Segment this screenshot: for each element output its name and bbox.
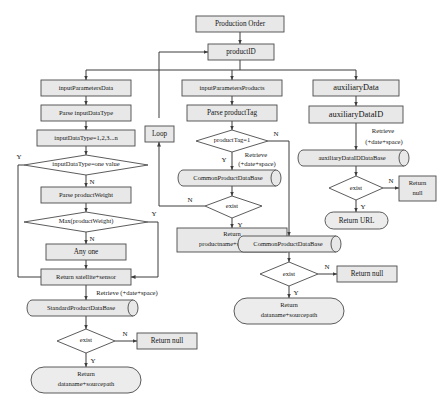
decision-product-tag-eq-1[interactable]: productTag=1 xyxy=(196,130,268,152)
decision-max-product-weight-label: Max(productWeight) xyxy=(59,217,114,225)
node-return-null-right-label: Return null xyxy=(351,270,384,278)
flowchart-canvas: Production Order productID inputParamete… xyxy=(0,0,442,407)
edge-label-retrieve-mid-1: Retrieve xyxy=(245,151,267,158)
node-parse-product-tag-label: Parse productTag xyxy=(207,109,257,117)
decision-exist-aux-label: exist xyxy=(350,184,362,191)
decision-exist-right[interactable]: exist xyxy=(260,262,318,286)
edge-label-retrieve-mid-2: (+date+space) xyxy=(238,160,275,168)
decision-exist-left[interactable]: exist xyxy=(57,329,115,353)
edge-label-onevalue-no: N xyxy=(89,178,94,186)
node-common-product-database-mid[interactable]: CommonProductDataBase xyxy=(178,170,281,186)
edge-label-maxweight-yes: Y xyxy=(151,210,156,218)
node-auxiliary-data[interactable]: auxiliaryData xyxy=(313,80,399,96)
node-return-productname-line1: Return xyxy=(223,230,241,237)
edge-label-existright-no: N xyxy=(324,263,329,271)
node-return-url[interactable]: Return URL xyxy=(325,212,388,229)
edge-label-producttag-yes: Y xyxy=(221,156,226,164)
node-return-dataname-left-line2: dataname+sourcepath xyxy=(58,380,115,387)
edge-label-existaux-yes: Y xyxy=(360,203,365,211)
node-auxiliary-data-label: auxiliaryData xyxy=(333,83,379,92)
node-parse-product-weight[interactable]: Parse productWeight xyxy=(41,187,131,203)
node-return-null-aux-line2: null xyxy=(412,189,422,196)
node-input-parameters-products[interactable]: inputParametersProducts xyxy=(182,80,282,96)
edge-label-maxweight-no: N xyxy=(89,235,94,243)
node-auxiliary-data-id-database[interactable]: auxiliaryDataIDDataBase xyxy=(298,150,409,166)
node-return-satellite-sensor-label: Return satellite+sensor xyxy=(56,273,117,280)
decision-exist-mid[interactable]: exist xyxy=(205,196,262,218)
edge-label-existmid-yes: Y xyxy=(237,221,242,229)
decision-product-tag-eq-1-label: productTag=1 xyxy=(214,136,250,143)
decision-exist-right-label: exist xyxy=(283,270,295,277)
node-input-parameters-products-label: inputParametersProducts xyxy=(200,84,265,91)
node-loop[interactable]: Loop xyxy=(145,126,174,142)
node-parse-input-data-type-label: Parse inputDataType xyxy=(59,109,113,116)
node-return-dataname-right[interactable]: Return dataname+sourcepath xyxy=(234,298,344,324)
node-return-dataname-right-line1: Return xyxy=(280,301,298,308)
edge-label-retrieve-left: Retrieve (+date+space) xyxy=(96,289,157,297)
node-input-data-type-enum-label: inputDataType=1,2,3...n xyxy=(54,134,118,141)
node-any-one-label: Any one xyxy=(74,248,99,256)
edge-label-existmid-no: N xyxy=(187,196,192,204)
node-loop-label: Loop xyxy=(152,130,168,138)
node-product-id-label: productID xyxy=(226,48,256,56)
node-production-order-label: Production Order xyxy=(215,20,266,28)
node-return-dataname-left-line1: Return xyxy=(77,370,95,377)
node-auxiliary-data-id[interactable]: auxiliaryDataID xyxy=(309,106,403,123)
node-return-null-aux-line1: Return xyxy=(409,179,427,186)
edge-label-retrieve-aux-2: (+date+space) xyxy=(365,138,402,146)
edge-label-onevalue-yes: Y xyxy=(16,153,21,161)
edge-label-existleft-yes: Y xyxy=(90,357,95,365)
node-input-data-type-enum[interactable]: inputDataType=1,2,3...n xyxy=(37,130,135,146)
edge-label-existaux-no: N xyxy=(388,177,393,185)
node-standard-product-database-label: StandardProductDataBase xyxy=(47,304,115,311)
node-return-null-left[interactable]: Return null xyxy=(137,333,197,349)
node-return-satellite-sensor[interactable]: Return satellite+sensor xyxy=(41,269,131,285)
node-return-null-right[interactable]: Return null xyxy=(337,266,397,282)
decision-exist-aux[interactable]: exist xyxy=(329,176,383,200)
edge-label-producttag-no: N xyxy=(273,130,278,138)
node-parse-input-data-type[interactable]: Parse inputDataType xyxy=(41,105,131,121)
edge-l6-yes xyxy=(131,222,158,277)
decision-max-product-weight[interactable]: Max(productWeight) xyxy=(24,212,148,232)
node-return-dataname-right-line2: dataname+sourcepath xyxy=(261,311,318,318)
node-auxiliary-data-id-label: auxiliaryDataID xyxy=(329,110,383,119)
edge-label-retrieve-aux-1: Retrieve xyxy=(372,127,394,134)
node-return-dataname-left[interactable]: Return dataname+sourcepath xyxy=(31,367,141,393)
node-return-null-aux[interactable]: Return null xyxy=(399,176,436,201)
node-auxiliary-data-id-database-label: auxiliaryDataIDDataBase xyxy=(318,154,385,161)
node-parse-product-weight-label: Parse productWeight xyxy=(59,191,113,198)
decision-exist-left-label: exist xyxy=(80,336,92,343)
decision-input-data-type-one-value[interactable]: inputDataType=one value xyxy=(24,155,148,175)
edge-label-existright-yes: Y xyxy=(293,289,298,297)
node-input-parameters-data-label: inputParametersData xyxy=(59,84,114,91)
node-any-one[interactable]: Any one xyxy=(46,244,126,260)
node-common-product-database-right-label: CommonProductDataBase xyxy=(253,240,322,247)
node-parse-product-tag[interactable]: Parse productTag xyxy=(187,105,277,121)
edge-m3-no xyxy=(268,141,289,236)
node-return-url-label: Return URL xyxy=(339,217,375,225)
node-common-product-database-mid-label: CommonProductDataBase xyxy=(193,174,262,181)
node-production-order[interactable]: Production Order xyxy=(196,16,284,32)
edge-label-existleft-no: N xyxy=(122,330,127,338)
node-product-id[interactable]: productID xyxy=(208,44,274,60)
node-standard-product-database[interactable]: StandardProductDataBase xyxy=(27,300,138,316)
decision-input-data-type-one-value-label: inputDataType=one value xyxy=(52,160,119,167)
node-common-product-database-right[interactable]: CommonProductDataBase xyxy=(238,236,341,252)
decision-exist-mid-label: exist xyxy=(226,202,238,209)
node-input-parameters-data[interactable]: inputParametersData xyxy=(41,80,131,96)
node-return-null-left-label: Return null xyxy=(151,337,184,345)
